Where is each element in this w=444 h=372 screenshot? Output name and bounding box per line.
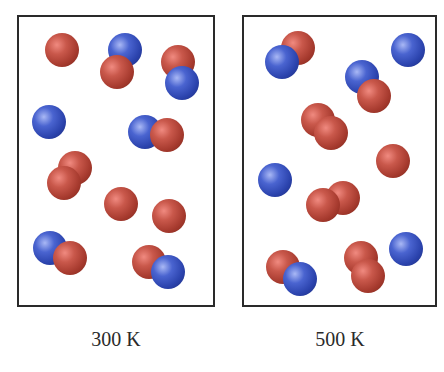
blue-atom-icon <box>32 105 66 139</box>
blue-atom-icon <box>389 232 423 266</box>
red-atom-icon <box>357 79 391 113</box>
blue-atom-icon <box>258 163 292 197</box>
red-atom-icon <box>104 187 138 221</box>
red-atom-icon <box>314 116 348 150</box>
red-atom-icon <box>306 188 340 222</box>
blue-atom-icon <box>283 262 317 296</box>
red-atom-icon <box>376 144 410 178</box>
blue-atom-icon <box>151 255 185 289</box>
red-atom-icon <box>47 166 81 200</box>
blue-atom-icon <box>165 66 199 100</box>
red-atom-icon <box>53 241 87 275</box>
blue-atom-icon <box>265 45 299 79</box>
red-atom-icon <box>150 118 184 152</box>
blue-atom-icon <box>391 33 425 67</box>
temperature-label-300k: 300 K <box>56 328 176 351</box>
temperature-label-500k: 500 K <box>280 328 400 351</box>
red-atom-icon <box>351 259 385 293</box>
red-atom-icon <box>152 199 186 233</box>
red-atom-icon <box>45 33 79 67</box>
red-atom-icon <box>100 55 134 89</box>
